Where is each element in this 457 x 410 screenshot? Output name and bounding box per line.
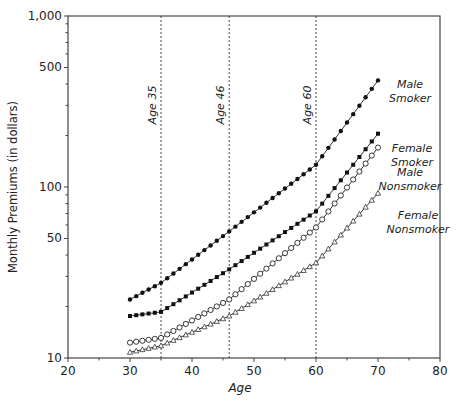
reference-line-label: Age 46 <box>214 86 227 126</box>
marker-open-triangle <box>239 306 244 311</box>
marker-filled-square <box>376 132 380 136</box>
marker-filled-circle <box>270 196 274 200</box>
marker-open-circle <box>338 193 343 198</box>
marker-filled-circle <box>277 191 281 195</box>
marker-filled-circle <box>184 262 188 266</box>
y-axis-title: Monthly Premiums (in dollars) <box>6 101 20 273</box>
marker-filled-square <box>196 287 200 291</box>
marker-open-circle <box>301 235 306 240</box>
marker-open-circle <box>239 287 244 292</box>
marker-open-circle <box>134 339 139 344</box>
marker-open-triangle <box>264 290 269 295</box>
marker-filled-circle <box>190 257 194 261</box>
marker-filled-square <box>333 186 337 190</box>
marker-filled-circle <box>202 248 206 252</box>
marker-filled-square <box>339 178 343 182</box>
marker-open-circle <box>158 335 163 340</box>
series-label: Male <box>397 78 423 91</box>
marker-filled-square <box>171 302 175 306</box>
marker-open-triangle <box>301 268 306 273</box>
marker-filled-square <box>283 230 287 234</box>
marker-open-circle <box>171 328 176 333</box>
marker-open-triangle <box>307 264 312 269</box>
y-tick-label: 1,000 <box>28 9 62 23</box>
marker-filled-circle <box>264 201 268 205</box>
marker-open-circle <box>183 321 188 326</box>
marker-open-circle <box>326 209 331 214</box>
marker-open-circle <box>307 230 312 235</box>
marker-filled-square <box>134 313 138 317</box>
marker-open-triangle <box>282 279 287 284</box>
marker-open-circle <box>313 225 318 230</box>
data-series <box>127 78 380 354</box>
marker-open-circle <box>245 281 250 286</box>
series-label: Female <box>392 142 433 155</box>
x-tick-label: 50 <box>246 364 261 378</box>
marker-open-circle <box>363 161 368 166</box>
series-male-nonsmoker <box>127 145 380 345</box>
marker-filled-circle <box>308 167 312 171</box>
marker-open-circle <box>214 304 219 309</box>
marker-open-circle <box>295 240 300 245</box>
marker-filled-square <box>246 255 250 259</box>
marker-filled-circle <box>351 112 355 116</box>
marker-filled-square <box>302 218 306 222</box>
marker-open-triangle <box>227 313 232 318</box>
marker-open-circle <box>270 261 275 266</box>
marker-filled-circle <box>339 129 343 133</box>
series-line <box>130 134 378 316</box>
marker-open-circle <box>152 336 157 341</box>
series-label: Nonsmoker <box>379 180 443 193</box>
marker-open-circle <box>140 338 145 343</box>
marker-open-circle <box>282 251 287 256</box>
marker-filled-square <box>202 283 206 287</box>
marker-filled-square <box>221 271 225 275</box>
x-tick-label: 80 <box>432 364 447 378</box>
marker-open-circle <box>233 292 238 297</box>
marker-open-triangle <box>245 302 250 307</box>
marker-filled-square <box>240 259 244 263</box>
marker-open-circle <box>357 169 362 174</box>
marker-filled-circle <box>146 287 150 291</box>
marker-filled-square <box>277 234 281 238</box>
marker-filled-circle <box>165 276 169 280</box>
marker-filled-square <box>153 311 157 315</box>
x-tick-label: 40 <box>184 364 199 378</box>
marker-filled-circle <box>320 154 324 158</box>
marker-filled-circle <box>283 186 287 190</box>
marker-open-circle <box>165 332 170 337</box>
marker-filled-square <box>295 222 299 226</box>
marker-filled-circle <box>215 239 219 243</box>
marker-filled-circle <box>258 205 262 209</box>
marker-filled-circle <box>196 253 200 257</box>
series-male-smoker <box>128 78 380 301</box>
x-tick-label: 70 <box>370 364 385 378</box>
marker-open-circle <box>208 307 213 312</box>
reference-line-label: Age 60 <box>301 86 314 126</box>
marker-open-circle <box>189 318 194 323</box>
marker-filled-circle <box>177 267 181 271</box>
marker-open-circle <box>264 266 269 271</box>
marker-filled-square <box>209 279 213 283</box>
marker-open-circle <box>258 271 263 276</box>
y-tick-label: 500 <box>39 60 62 74</box>
marker-open-circle <box>369 153 374 158</box>
marker-open-circle <box>220 300 225 305</box>
marker-open-circle <box>251 276 256 281</box>
marker-filled-square <box>351 163 355 167</box>
marker-open-circle <box>332 201 337 206</box>
marker-filled-square <box>147 312 151 316</box>
marker-filled-square <box>314 209 318 213</box>
series-line <box>130 80 378 299</box>
series-line <box>130 148 378 343</box>
marker-open-circle <box>146 337 151 342</box>
marker-filled-circle <box>252 210 256 214</box>
marker-filled-circle <box>128 297 132 301</box>
marker-open-circle <box>227 297 232 302</box>
marker-filled-square <box>178 298 182 302</box>
marker-filled-circle <box>233 224 237 228</box>
marker-open-triangle <box>233 309 238 314</box>
marker-filled-square <box>128 314 132 318</box>
marker-open-triangle <box>295 271 300 276</box>
x-axis: 20304050607080 <box>60 358 447 378</box>
